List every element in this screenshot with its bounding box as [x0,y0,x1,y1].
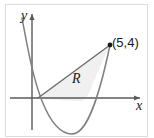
y-axis-label: y [21,9,27,23]
parabola-curve [22,18,110,134]
point-coordinate-label: (5,4) [112,36,139,49]
y-axis-arrow-icon [29,14,34,20]
x-axis-label: x [136,99,142,113]
region-label-R: R [72,72,81,86]
math-figure: y x R (5,4) [0,0,154,138]
